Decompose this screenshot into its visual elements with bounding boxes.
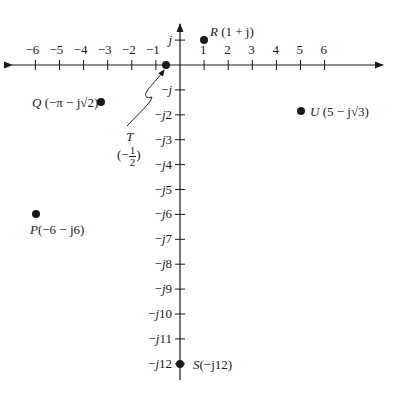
x-tick-label: −3 — [98, 43, 112, 56]
y-tick-label: −j10 — [148, 307, 172, 320]
x-tick-label: 3 — [248, 43, 255, 56]
x-tick-label: −4 — [74, 43, 88, 56]
y-tick-label: j — [168, 33, 172, 46]
y-tick-label: −j6 — [155, 207, 172, 220]
y-tick-label: −j12 — [148, 357, 172, 370]
x-tick-label: −1 — [146, 43, 160, 56]
label-r: R (1 + j) — [210, 25, 254, 38]
x-tick-label: 6 — [321, 43, 328, 56]
y-tick-label: −j11 — [149, 332, 173, 345]
complex-plane — [0, 0, 398, 407]
y-tick-label: −j5 — [155, 183, 172, 196]
y-tick-label: −j4 — [155, 158, 172, 171]
point-u — [297, 107, 305, 115]
label-u: U (5 − j√3) — [310, 105, 369, 118]
y-tick-label: −j7 — [155, 232, 172, 245]
y-tick-label: −j2 — [155, 108, 172, 121]
point-t — [162, 61, 170, 69]
point-s — [176, 360, 184, 368]
point-p — [32, 210, 40, 218]
y-tick-label: −j8 — [155, 257, 172, 270]
label-t: T (−12) — [117, 130, 141, 168]
x-tick-label: 1 — [200, 43, 207, 56]
y-tick-label: −j9 — [155, 282, 172, 295]
y-tick-label: −j3 — [155, 133, 172, 146]
x-tick-label: −6 — [25, 43, 39, 56]
x-tick-label: −5 — [50, 43, 64, 56]
label-q: Q (−π − j√2) — [32, 96, 98, 109]
label-s: S(−j12) — [193, 358, 232, 371]
label-p: P(−6 − j6) — [30, 223, 84, 236]
y-tick-label: −j — [161, 83, 172, 96]
x-tick-label: 5 — [297, 43, 304, 56]
x-tick-label: −2 — [122, 43, 136, 56]
x-tick-label: 2 — [224, 43, 231, 56]
x-tick-label: 4 — [272, 43, 279, 56]
